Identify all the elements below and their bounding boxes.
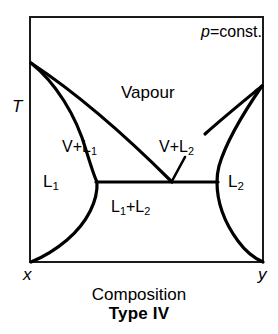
figure-caption: Composition Type IV: [0, 285, 278, 323]
caption-composition: Composition: [0, 285, 278, 304]
region-label-l1-plus-l2-plus: +L: [126, 198, 144, 215]
region-label-l2-sub: 2: [237, 180, 243, 192]
left-dew-curve: [31, 63, 172, 182]
region-label-vapour: Vapour: [121, 84, 175, 101]
right-miscibility-branch: [217, 182, 263, 262]
phase-diagram-canvas: [0, 0, 278, 334]
region-label-v-plus-l1: V+L1: [62, 139, 97, 157]
x-axis-right-label: y: [258, 266, 267, 283]
x-axis-left-label: x: [23, 266, 32, 283]
region-label-v-plus-l2: V+L2: [159, 139, 194, 157]
region-label-l1-sub: 1: [52, 180, 58, 192]
region-label-l1-plus-l2: L1+L2: [111, 199, 150, 217]
region-label-l1: L1: [43, 173, 59, 193]
region-label-l1-plus-l2-second-sub: 2: [144, 205, 150, 217]
left-bubble-curve: [31, 63, 97, 182]
region-label-v-plus-l2-text: V+L: [159, 138, 188, 155]
pressure-value: =const.: [210, 23, 262, 40]
region-label-l1-plus-l2-first: L: [111, 198, 120, 215]
pressure-symbol: p: [201, 23, 210, 40]
phase-diagram-figure: p=const. T x y Vapour V+L1 V+L2 L1 L2 L1…: [0, 0, 278, 334]
caption-type: Type IV: [0, 304, 278, 323]
region-label-l2: L2: [228, 173, 244, 193]
region-label-v-plus-l1-sub: 1: [91, 145, 97, 157]
left-miscibility-branch: [31, 182, 97, 262]
region-label-v-plus-l1-text: V+L: [62, 138, 91, 155]
region-label-v-plus-l2-sub: 2: [188, 145, 194, 157]
y-axis-label: T: [12, 98, 22, 115]
right-bubble-curve: [217, 86, 262, 182]
right-dew-curve: [205, 86, 262, 134]
v-plus-l2-leader-line: [172, 157, 185, 181]
pressure-condition-label: p=const.: [201, 24, 262, 40]
